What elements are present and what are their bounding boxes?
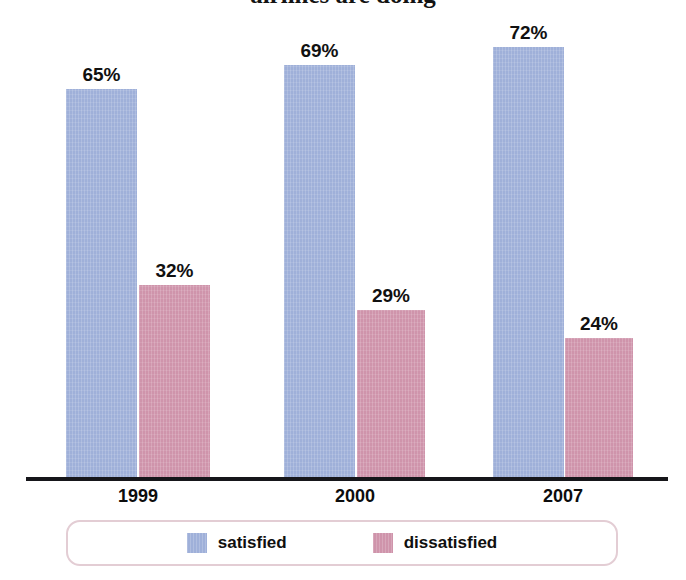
bar-satisfied-2000 — [284, 65, 355, 479]
bar-label-dissatisfied-2000: 29% — [357, 285, 425, 307]
legend-entry-dissatisfied: dissatisfied — [373, 533, 498, 553]
bar-chart: airlines are doing 65% 32% 69% 29% 72% 2… — [0, 0, 686, 580]
legend-swatch-dissatisfied-icon — [373, 533, 393, 553]
bar-satisfied-1999 — [66, 89, 137, 479]
legend-label-satisfied: satisfied — [218, 533, 287, 553]
plot-area: 65% 32% 69% 29% 72% 24% — [0, 0, 686, 479]
bar-label-dissatisfied-2007: 24% — [565, 313, 633, 335]
bar-dissatisfied-2007 — [565, 338, 633, 479]
bar-dissatisfied-1999 — [139, 285, 210, 479]
legend-entry-satisfied: satisfied — [187, 533, 287, 553]
bar-dissatisfied-2000 — [357, 310, 425, 479]
legend-swatch-satisfied-icon — [187, 533, 207, 553]
x-axis-tick-1999: 1999 — [98, 485, 178, 507]
bar-label-satisfied-1999: 65% — [66, 64, 137, 86]
legend-label-dissatisfied: dissatisfied — [404, 533, 498, 553]
x-axis-line — [26, 477, 668, 481]
bar-satisfied-2007 — [493, 47, 564, 479]
bar-label-dissatisfied-1999: 32% — [139, 260, 210, 282]
x-axis-tick-2000: 2000 — [315, 485, 395, 507]
bar-label-satisfied-2007: 72% — [493, 22, 564, 44]
x-axis-tick-2007: 2007 — [523, 485, 603, 507]
bar-label-satisfied-2000: 69% — [284, 40, 355, 62]
chart-legend: satisfied dissatisfied — [66, 520, 618, 566]
